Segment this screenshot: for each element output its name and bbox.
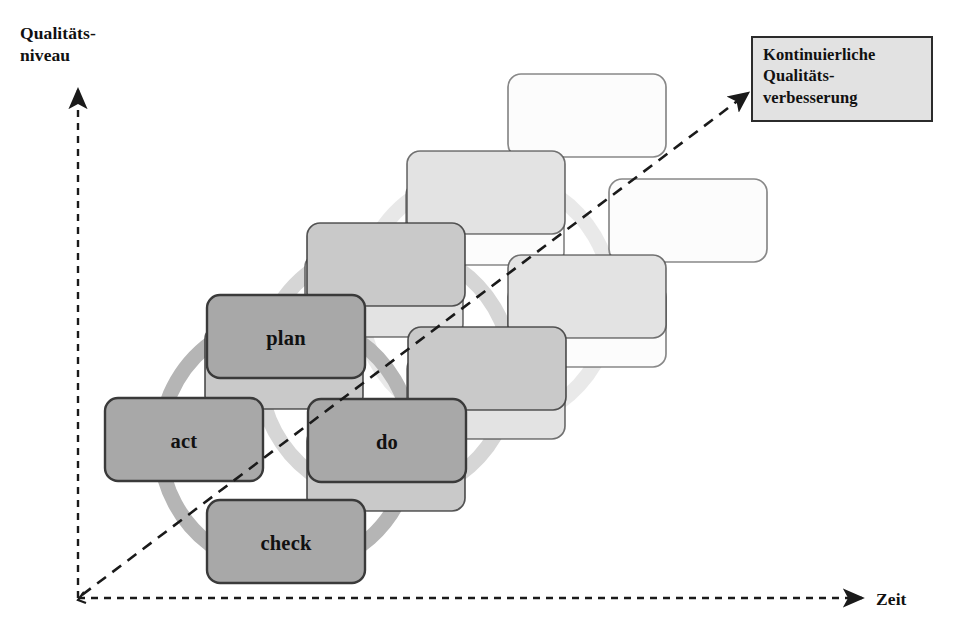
y-axis-label: Qualitäts- niveau [20,22,96,67]
pdca-step-label-do: do [376,430,398,453]
diagram-canvas: Qualitäts- niveau Zeit Kontinuierliche Q… [0,0,955,644]
pdca-step-box-do [508,255,666,338]
x-axis-label: Zeit [876,588,907,610]
pdca-step-box-do [609,179,767,262]
pdca-step-box-plan [407,151,565,234]
pdca-step-label-check: check [260,531,311,554]
continuous-improvement-callout: Kontinuierliche Qualitäts- verbesserung [751,36,933,122]
pdca-step-box-plan [508,74,666,157]
continuous-improvement-callout-text: Kontinuierliche Qualitäts- verbesserung [763,44,929,108]
pdca-step-box-do [408,327,566,410]
pdca-step-label-plan: plan [266,326,306,349]
pdca-step-label-act: act [171,429,198,452]
pdca-step-box-plan [307,223,465,306]
